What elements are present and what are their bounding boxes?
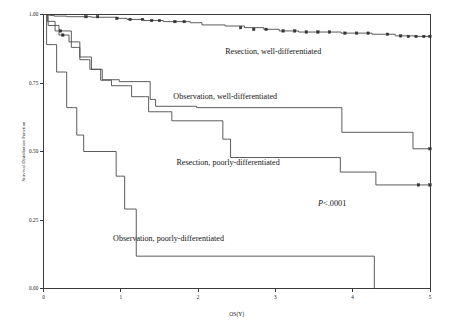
pvalue-value: <.0001 — [323, 199, 346, 208]
censor-mark — [344, 32, 347, 34]
series-label-1: Resection, well-differentiated — [225, 47, 321, 56]
censor-mark — [429, 148, 432, 151]
censor-mark — [150, 19, 153, 22]
y-axis-title: Survival Distribution Function — [21, 121, 26, 182]
series-labels: Resection, well-differentiatedObservatio… — [113, 47, 321, 242]
censor-mark — [399, 35, 402, 38]
censor-mark — [328, 31, 331, 34]
series-label-2: Observation, well-differentiated — [173, 92, 277, 101]
censor-mark — [129, 18, 132, 21]
x-axis-title: OS(Y) — [229, 311, 244, 318]
censor-mark — [59, 30, 62, 33]
y-tick-label-0.25: 0.25 — [29, 217, 39, 223]
y-tick-label-0.75: 0.75 — [29, 80, 39, 86]
censor-mark — [429, 184, 432, 187]
censor-mark — [407, 35, 410, 38]
curve-resection-well-differentiated — [44, 15, 431, 37]
censor-mark — [174, 20, 177, 23]
censor-mark — [305, 31, 308, 34]
series-label-4: Observation, poorly-differentiated — [113, 234, 224, 243]
censor-mark — [417, 184, 420, 187]
y-tick-label-0.50: 0.50 — [29, 148, 39, 154]
censor-mark — [423, 35, 426, 38]
y-tick-label-1.00: 1.00 — [29, 11, 39, 17]
x-tick-label-2: 2 — [197, 294, 200, 300]
pvalue-annotation: P<.0001 — [317, 199, 346, 208]
censor-mark — [429, 35, 432, 38]
censor-mark — [415, 35, 418, 38]
censor-mark — [96, 15, 99, 17]
censor-mark — [317, 31, 320, 34]
pvalue-text: P<.0001 — [317, 199, 346, 208]
censor-mark — [265, 28, 268, 31]
x-tick-label-4: 4 — [351, 294, 354, 300]
censor-mark — [116, 17, 119, 20]
censor-mark — [355, 32, 358, 34]
series-label-3: Resection, poorly-differentiated — [176, 158, 279, 167]
x-tick-label-3: 3 — [274, 294, 277, 300]
censor-mark — [183, 20, 186, 23]
censor-mark — [293, 30, 296, 33]
censor-mark — [62, 34, 65, 37]
censor-mark — [386, 33, 389, 36]
censor-mark — [239, 26, 242, 29]
censor-mark — [141, 18, 144, 21]
censor-mark — [282, 30, 285, 33]
kaplan-meier-figure: Resection, well-differentiatedObservatio… — [0, 0, 449, 330]
survival-plot: Resection, well-differentiatedObservatio… — [0, 0, 449, 330]
x-tick-label-5: 5 — [429, 294, 432, 300]
curve-observation-poorly-differentiated — [44, 15, 375, 289]
censor-mark — [367, 32, 370, 34]
x-tick-label-0: 0 — [42, 294, 45, 300]
censor-mark — [85, 15, 88, 17]
censor-mark — [158, 19, 161, 22]
y-tick-label-0.00: 0.00 — [29, 285, 39, 291]
x-tick-label-1: 1 — [119, 294, 122, 300]
censor-mark — [253, 28, 256, 31]
